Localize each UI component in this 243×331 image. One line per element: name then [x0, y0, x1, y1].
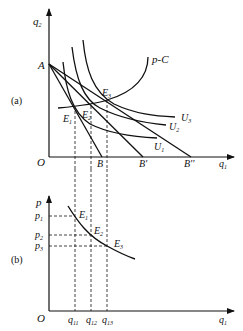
- pcc-label: p-C: [151, 53, 169, 65]
- point-A-label: A: [37, 59, 45, 71]
- origin-b-label: O: [37, 312, 45, 324]
- B-double-prime-label: B'': [184, 158, 195, 169]
- E2-label-a: E2: [81, 109, 91, 121]
- panel-a: q2 A (a) O B B' B'' q1 p-C U3 U2 U1 E1 E…: [11, 9, 234, 170]
- U3-label: U3: [181, 112, 191, 124]
- p-axis-label: p: [35, 196, 42, 208]
- E1-label-b: E1: [78, 209, 88, 221]
- U2-label: U2: [169, 121, 179, 133]
- panel-a-label: (a): [11, 95, 22, 107]
- E1-label-a: E1: [62, 113, 72, 125]
- U1-label: U1: [154, 141, 164, 153]
- price-consumption-diagram: q2 A (a) O B B' B'' q1 p-C U3 U2 U1 E1 E…: [0, 0, 243, 331]
- p3-label: p3: [34, 240, 43, 252]
- B-label: B: [97, 158, 103, 169]
- q13-label: q13: [102, 314, 113, 326]
- E3-label-a: E3: [101, 87, 111, 99]
- p1-label: p1: [34, 210, 43, 222]
- B-prime-label: B': [139, 158, 148, 169]
- origin-a-label: O: [37, 156, 45, 168]
- q11-label: q11: [68, 314, 79, 326]
- budget-line-AB: [49, 64, 102, 157]
- q1-axis-label-a: q1: [219, 158, 227, 170]
- E3-label-b: E3: [113, 238, 123, 250]
- budget-line-AB-double-prime: [49, 64, 191, 157]
- q12-label: q12: [86, 314, 97, 326]
- panel-b: p p1 p2 p3 (b) O q11 q12 q13 q1 E1 E2 E3: [11, 169, 234, 326]
- E2-label-b: E2: [93, 225, 103, 237]
- q2-axis-label: q2: [33, 15, 42, 28]
- q1-axis-label-b: q1: [219, 314, 227, 326]
- panel-b-label: (b): [11, 254, 23, 266]
